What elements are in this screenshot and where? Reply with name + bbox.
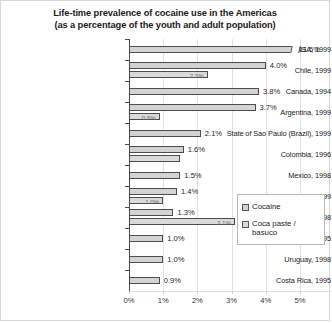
- x-axis-tick-mark: [163, 291, 164, 294]
- x-axis-tick-label: 2%: [192, 296, 203, 305]
- y-axis-tick: [125, 123, 130, 124]
- x-axis-tick-label: 0%: [124, 296, 135, 305]
- x-axis-tick-mark: [232, 291, 233, 294]
- x-axis-tick-mark: [266, 291, 267, 294]
- bar-value-label-secondary: 2.3%: [190, 72, 204, 80]
- gridline: [232, 39, 233, 291]
- legend-swatch-coca-paste: [242, 221, 249, 228]
- bar-coca-paste: [129, 155, 180, 162]
- bar-value-label: 1.6%: [188, 146, 205, 154]
- legend-label-cocaine: Cocaine: [252, 202, 281, 212]
- y-axis-tick: [125, 207, 130, 208]
- legend-item-cocaine: Cocaine: [242, 202, 320, 212]
- bar-value-label: 0.9%: [164, 277, 181, 285]
- category-label: State of Sao Paulo (Brazil), 1999: [209, 129, 331, 138]
- bar-value-label: 1.0%: [167, 235, 184, 243]
- chart-container: Life-time prevalence of cocaine use in t…: [0, 0, 330, 321]
- category-label: Uruguay, 1998: [209, 255, 331, 264]
- bar-cocaine: [129, 235, 163, 242]
- y-axis-tick: [125, 249, 130, 250]
- category-label: Colombia, 1996: [209, 150, 331, 159]
- category-label: Costa Rica, 1995: [209, 276, 331, 285]
- bar-value-label: 11.5%: [299, 46, 320, 54]
- bar-value-label-secondary: 1.0%: [145, 198, 159, 206]
- y-axis-tick: [125, 102, 130, 103]
- bar-value-label: 1.0%: [167, 256, 184, 264]
- bar-cocaine: [129, 146, 184, 153]
- chart-title-line-1: Life-time prevalence of cocaine use in t…: [53, 8, 276, 18]
- bar-value-label-secondary: 0.9%: [142, 114, 156, 122]
- bar-value-label: 3.8%: [263, 88, 280, 96]
- x-axis-tick-mark: [129, 291, 130, 294]
- y-axis-tick: [125, 144, 130, 145]
- category-label: Mexico, 1998: [209, 171, 331, 180]
- x-axis-tick-mark: [197, 291, 198, 294]
- gridline: [266, 39, 267, 291]
- legend-swatch-cocaine: [242, 204, 249, 211]
- x-axis-tick-mark: [300, 291, 301, 294]
- x-axis-tick-label: 4%: [260, 296, 271, 305]
- x-axis-tick-label: 1%: [158, 296, 169, 305]
- gridline: [300, 39, 301, 291]
- y-axis-tick: [125, 39, 130, 40]
- bar-value-label-secondary: 3.1%: [217, 219, 231, 227]
- y-axis-tick: [125, 270, 130, 271]
- bar-cocaine: [129, 172, 180, 179]
- bar-cocaine: [129, 256, 163, 263]
- bar-cocaine: [129, 46, 295, 53]
- chart-title: Life-time prevalence of cocaine use in t…: [1, 1, 329, 31]
- y-axis-tick: [125, 165, 130, 166]
- y-axis-tick: [125, 60, 130, 61]
- legend-label-coca-paste: Coca paste / basuco: [252, 219, 296, 238]
- plot-area: USA, 199911.5%Chile, 19994.0%2.3%Canada,…: [1, 39, 331, 322]
- chart-title-line-2: (as a percentage of the youth and adult …: [1, 20, 329, 32]
- bar-cocaine: [129, 277, 160, 284]
- x-axis-tick-label: 5%: [295, 296, 306, 305]
- bar-cocaine: [129, 62, 266, 69]
- y-axis-tick: [125, 81, 130, 82]
- bar-value-label: 3.7%: [260, 104, 277, 112]
- bar-value-label: 2.1%: [205, 130, 222, 138]
- y-axis-tick: [125, 186, 130, 187]
- bar-value-label: 1.5%: [184, 172, 201, 180]
- bar-cocaine: [129, 188, 177, 195]
- bar-value-label: 1.4%: [181, 188, 198, 196]
- bar-value-label: 4.0%: [270, 62, 287, 70]
- bar-cocaine: [129, 104, 256, 111]
- bar-cocaine: [129, 130, 201, 137]
- chart-legend: Cocaine Coca paste / basuco: [237, 194, 325, 245]
- y-axis-tick: [125, 228, 130, 229]
- bar-cocaine: [129, 88, 259, 95]
- bar-value-label: 1.3%: [177, 209, 194, 217]
- x-axis-tick-label: 3%: [226, 296, 237, 305]
- legend-item-coca-paste: Coca paste / basuco: [242, 219, 320, 238]
- bar-cocaine: [129, 209, 173, 216]
